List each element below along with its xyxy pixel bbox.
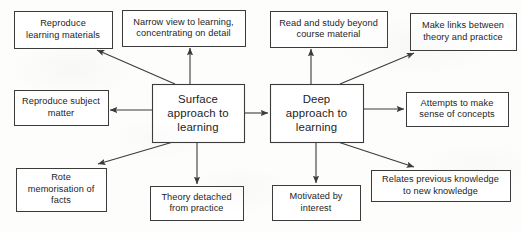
node-label-narrow-view: Narrow view to learning, concentrating o…: [122, 10, 245, 46]
node-label-attempts-sense-of-concepts: Attempts to make sense of concepts: [406, 92, 508, 126]
edge-layer: [97, 48, 414, 184]
node-label-read-and-study-beyond: Read and study beyond course material: [270, 11, 387, 47]
node-label-reproduce-subject-matter: Reproduce subject matter: [14, 90, 108, 125]
edge-deep-to-relates-knowledge: [338, 142, 414, 167]
node-label-make-links: Make links between theory and practice: [410, 13, 516, 50]
node-label-reproduce-learning-materials: Reproduce learning materials: [14, 11, 112, 48]
concept-map-diagram: Surface approach to learningDeep approac…: [0, 0, 521, 232]
node-label-relates-previous-knowledge: Relates previous knowledge to new knowle…: [371, 170, 510, 201]
node-label-deep-approach: Deep approach to learning: [270, 84, 363, 142]
node-label-theory-detached: Theory detached from practice: [150, 186, 243, 220]
edge-deep-to-make-links: [340, 53, 414, 84]
node-label-motivated-by-interest: Motivated by interest: [272, 185, 360, 220]
node-label-surface-approach: Surface approach to learning: [152, 84, 244, 142]
node-label-rote-memorisation: Rote memorisation of facts: [16, 168, 106, 211]
edge-surface-to-reproduce-materials: [97, 50, 175, 84]
edge-surface-to-rote-memorisation: [98, 142, 173, 164]
